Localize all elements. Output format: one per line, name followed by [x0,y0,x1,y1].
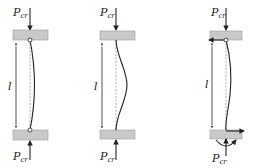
top-load-label: Pcr [99,6,115,20]
top-load-label: Pcr [210,6,226,20]
bottom-load-label: Pcr [211,152,227,166]
buckling-diagram: Pcr l Pcr Pcr l Pcr [0,0,256,167]
buckled-shape [116,40,127,130]
bottom-load-label: Pcr [99,150,115,164]
top-hinge-icon [28,38,32,42]
top-plate [100,31,135,40]
length-label: l [205,78,209,91]
bottom-load-label: Pcr [12,150,28,164]
column-fixed-fixed: Pcr l Pcr [94,6,135,164]
buckled-shape [226,40,231,130]
top-load-label: Pcr [12,6,28,20]
bottom-hinge-icon [28,128,32,132]
length-label: l [94,80,98,93]
top-hinge-icon [224,38,228,42]
length-label: l [8,80,12,93]
column-pinned-pinned: Pcr l Pcr [8,6,48,164]
column-pinned-fixed: Pcr l Pcr [205,6,244,166]
bottom-plate [100,130,135,139]
buckled-shape [30,40,35,130]
